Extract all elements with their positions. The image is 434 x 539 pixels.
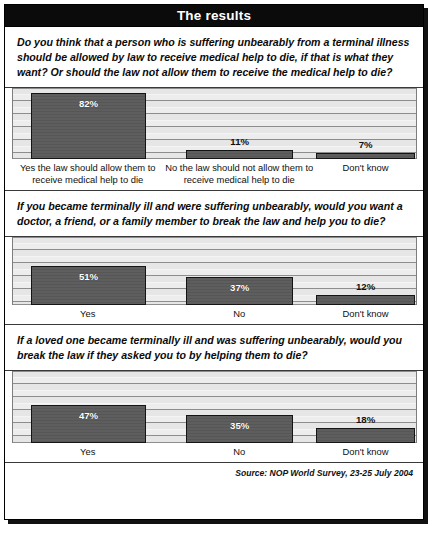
results-infographic: The results Do you think that a person w… — [0, 0, 434, 539]
bar-cell-2-2: 12% — [315, 237, 416, 305]
bar-chart-1: 82% 11% 7% Yes the — [5, 88, 423, 191]
bar-value-2-0: 51% — [79, 271, 98, 282]
bar-value-3-1: 35% — [230, 420, 249, 431]
category-labels-3: Yes No Don't know — [5, 443, 423, 462]
results-panel: The results Do you think that a person w… — [4, 4, 424, 520]
bar-chart-2: 51% 37% 12% — [5, 237, 423, 325]
plot-area-1: 82% 11% 7% — [12, 88, 417, 159]
source-note: Source: NOP World Survey, 23-25 July 200… — [5, 463, 423, 484]
page-title: The results — [177, 8, 251, 23]
question-text-3: If a loved one became terminally ill and… — [5, 325, 423, 371]
category-labels-2: Yes No Don't know — [5, 305, 423, 324]
question-text-2: If you became terminally ill and were su… — [5, 191, 423, 237]
bar-1-1[interactable] — [186, 150, 293, 159]
category-label-3-2: Don't know — [315, 446, 416, 458]
category-label-2-2: Don't know — [315, 308, 416, 320]
bar-value-1-2: 7% — [315, 139, 416, 150]
category-label-3-0: Yes — [12, 446, 164, 458]
bar-cell-3-2: 18% — [315, 371, 416, 443]
bars-2: 51% 37% 12% — [13, 237, 416, 305]
bar-value-2-2: 12% — [315, 281, 416, 292]
bar-cell-2-1: 37% — [164, 237, 315, 305]
bar-2-1[interactable]: 37% — [186, 277, 293, 306]
category-label-1-0: Yes the law should allow them to receive… — [12, 162, 164, 186]
bar-cell-3-1: 35% — [164, 371, 315, 443]
bar-value-2-1: 37% — [230, 282, 249, 293]
bar-1-2[interactable] — [316, 153, 416, 159]
bar-value-3-2: 18% — [315, 414, 416, 425]
bar-2-0[interactable]: 51% — [31, 266, 146, 305]
bar-value-1-1: 11% — [164, 136, 315, 147]
bar-1-0[interactable]: 82% — [31, 93, 146, 159]
bar-cell-1-0: 82% — [13, 88, 164, 159]
category-label-2-1: No — [164, 308, 316, 320]
bar-3-2[interactable] — [316, 428, 416, 443]
bars-1: 82% 11% 7% — [13, 88, 416, 159]
category-label-3-1: No — [164, 446, 316, 458]
bar-3-0[interactable]: 47% — [31, 405, 146, 443]
bar-value-3-0: 47% — [79, 410, 98, 421]
bar-3-1[interactable]: 35% — [186, 415, 293, 444]
bar-chart-3: 47% 35% 18% — [5, 371, 423, 463]
bar-cell-2-0: 51% — [13, 237, 164, 305]
panel-title-bar: The results — [5, 5, 423, 27]
plot-area-2: 51% 37% 12% — [12, 237, 417, 305]
bar-2-2[interactable] — [316, 295, 416, 305]
bars-3: 47% 35% 18% — [13, 371, 416, 443]
question-text-1: Do you think that a person who is suffer… — [5, 27, 423, 88]
bar-cell-3-0: 47% — [13, 371, 164, 443]
category-label-1-1: No the law should not allow them to rece… — [164, 162, 316, 186]
plot-area-3: 47% 35% 18% — [12, 371, 417, 443]
category-label-1-2: Don't know — [315, 162, 416, 186]
panel-body: Do you think that a person who is suffer… — [5, 27, 423, 484]
category-labels-1: Yes the law should allow them to receive… — [5, 159, 423, 190]
category-label-2-0: Yes — [12, 308, 164, 320]
bar-value-1-0: 82% — [79, 98, 98, 109]
bar-cell-1-1: 11% — [164, 88, 315, 159]
bar-cell-1-2: 7% — [315, 88, 416, 159]
